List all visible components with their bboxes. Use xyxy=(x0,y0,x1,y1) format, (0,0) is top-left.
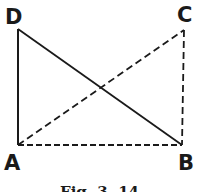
label-C: C xyxy=(177,3,192,27)
segment-CB-dashed xyxy=(182,30,184,145)
figure-caption: Fig. 3. 14 xyxy=(60,183,139,192)
label-B: B xyxy=(178,151,194,175)
geometry-diagram: D C A B Fig. 3. 14 xyxy=(0,0,198,192)
segment-DB xyxy=(18,29,182,145)
label-A: A xyxy=(4,151,21,175)
label-D: D xyxy=(5,5,22,29)
